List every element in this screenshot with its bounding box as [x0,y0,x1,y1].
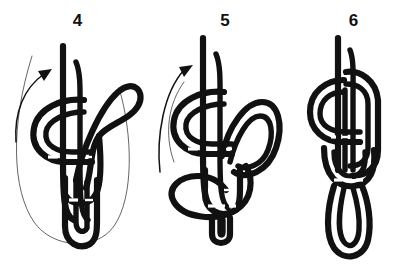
diagram-panel-step-5: 5 [150,0,290,266]
tuck-direction-arrow-line-4 [16,74,44,142]
tuck-direction-arrow-head-5 [179,65,193,77]
knot-illustration-step-4 [0,30,150,266]
hanging-bight-inner-6 [340,188,360,246]
lower-bight-inner-5 [220,220,223,235]
standing-part-right-6 [350,50,353,170]
diagram-panel-step-6: 6 [290,0,412,266]
knot-illustration-step-5 [150,30,290,266]
diagram-panel-step-4: 4 [0,0,150,266]
step-number-label-5: 5 [150,11,290,31]
step-number-label-6: 6 [290,11,412,31]
tuck-direction-arrow-head-4 [38,69,52,81]
knot-illustration-step-6 [290,30,412,266]
step-number-label-4: 4 [0,11,150,31]
knot-diagram-page: 4 [0,0,412,266]
